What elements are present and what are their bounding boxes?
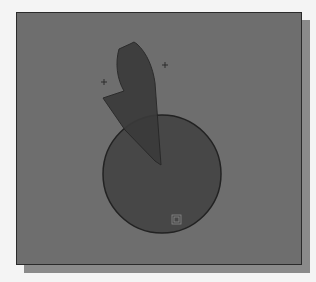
circle-entity[interactable] <box>103 115 221 233</box>
drawing-canvas[interactable] <box>17 13 301 264</box>
drawing-viewport[interactable] <box>16 12 302 265</box>
cross-marker-icon <box>162 62 168 68</box>
cross-marker-icon <box>101 79 107 85</box>
